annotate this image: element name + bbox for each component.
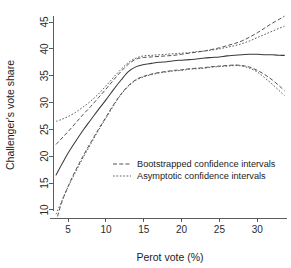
series-bootstrapped-lower [58,65,285,216]
curve-group [56,16,284,216]
y-tick-label: 25 [40,123,51,135]
loess-plot-svg: 1015202530354045 51015202530 Bootstrappe… [0,0,291,268]
y-axis: 1015202530354045 [40,16,54,215]
y-tick-label: 10 [40,204,51,216]
y-tick-label: 15 [40,177,51,189]
series-asymptotic-lower [56,66,284,215]
y-tick-label: 40 [40,43,51,55]
legend-label: Bootstrapped confidence intervals [137,159,276,169]
y-tick-label: 20 [40,150,51,162]
chart-legend: Bootstrapped confidence intervalsAsympto… [113,159,276,181]
legend-label: Asymptotic confidence intervals [137,171,266,181]
x-tick-label: 25 [214,224,226,235]
y-axis-title: Challenger's vote share [4,60,16,170]
series-bootstrapped-upper [56,16,284,144]
chart-figure: 1015202530354045 51015202530 Bootstrappe… [0,0,291,268]
x-axis-title: Perot vote (%) [136,251,203,263]
x-tick-label: 5 [65,224,71,235]
y-tick-label: 30 [40,97,51,109]
series-fitted-curve [56,54,284,175]
x-tick-label: 15 [138,224,150,235]
x-axis: 51015202530 [50,218,287,235]
x-tick-label: 20 [176,224,188,235]
x-tick-label: 30 [252,224,264,235]
y-tick-label: 45 [40,16,51,28]
x-tick-label: 10 [100,224,112,235]
y-tick-label: 35 [40,70,51,82]
